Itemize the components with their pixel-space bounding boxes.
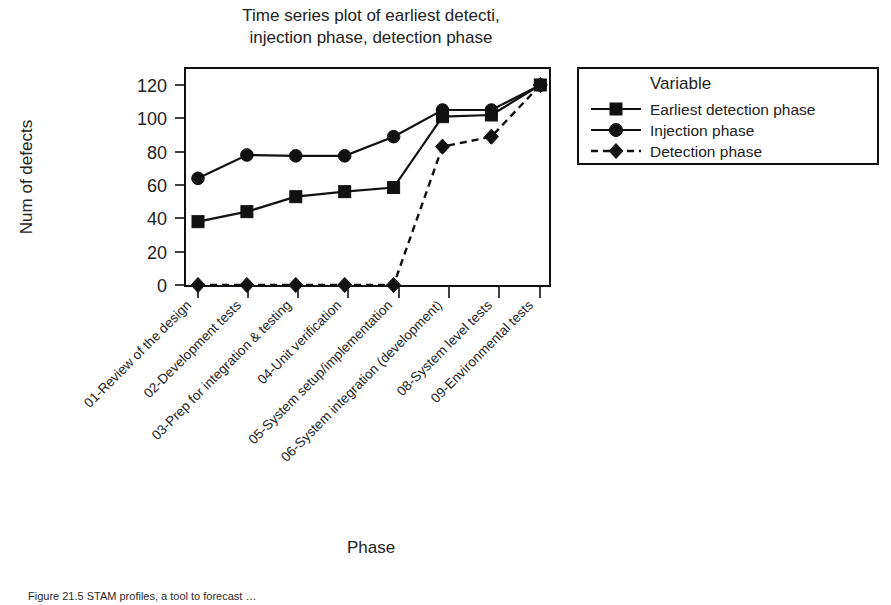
legend-entry-detection-phase[interactable]: Detection phase xyxy=(591,143,762,160)
y-tick-label-20: 20 xyxy=(147,243,167,263)
circle-marker-icon xyxy=(241,149,254,162)
circle-marker-icon xyxy=(387,130,400,143)
y-axis: Num of defects 120 100 80 60 40 20 0 xyxy=(17,76,185,296)
diamond-marker-icon xyxy=(240,277,254,292)
square-marker-icon xyxy=(339,186,351,198)
plot-area-frame xyxy=(185,68,550,286)
circle-marker-icon xyxy=(192,172,205,185)
legend-label: Detection phase xyxy=(650,143,762,160)
legend-label: Earliest detection phase xyxy=(650,101,815,118)
y-tick-label-40: 40 xyxy=(147,209,167,229)
diamond-marker-icon xyxy=(338,277,352,292)
circle-marker-icon xyxy=(436,104,449,117)
y-tick-label-120: 120 xyxy=(137,76,167,96)
circle-marker-icon xyxy=(485,104,498,117)
square-marker-icon xyxy=(388,182,400,194)
legend-label: Injection phase xyxy=(650,122,754,139)
diamond-marker-icon xyxy=(289,277,303,292)
legend-entry-injection-phase[interactable]: Injection phase xyxy=(591,122,754,139)
figure-caption: Figure 21.5 STAM profiles, a tool to for… xyxy=(28,590,256,602)
diamond-marker-icon xyxy=(191,277,205,292)
circle-marker-icon xyxy=(338,150,351,163)
chart-title-line-2: injection phase, detection phase xyxy=(250,28,493,47)
y-tick-label-60: 60 xyxy=(147,176,167,196)
y-tick-label-80: 80 xyxy=(147,143,167,163)
x-tick-label-04: 04-Unit verification xyxy=(254,298,344,388)
y-axis-label: Num of defects xyxy=(17,120,36,234)
chart-title-line-1: Time series plot of earliest detecti, xyxy=(242,6,499,25)
y-tick-label-0: 0 xyxy=(157,276,167,296)
x-tick-label-02: 02-Development tests xyxy=(141,297,245,401)
square-marker-icon xyxy=(241,206,253,218)
legend-title: Variable xyxy=(650,74,711,93)
x-axis: 01-Review of the design 02-Development t… xyxy=(81,286,540,557)
data-series-layer xyxy=(191,77,547,292)
x-axis-label: Phase xyxy=(347,538,395,557)
square-marker-icon xyxy=(192,216,204,228)
y-tick-label-100: 100 xyxy=(137,109,167,129)
diamond-marker-icon xyxy=(436,139,450,154)
chart-figure: Time series plot of earliest detecti, in… xyxy=(0,0,891,605)
circle-marker-icon xyxy=(290,150,303,163)
legend: Variable Earliest detection phase Inject… xyxy=(578,68,878,164)
square-marker-icon xyxy=(610,103,622,115)
circle-marker-icon xyxy=(610,124,623,137)
square-marker-icon xyxy=(290,191,302,203)
